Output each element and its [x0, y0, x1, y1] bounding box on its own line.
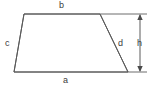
label-height-h: h — [137, 39, 142, 48]
arrow-head-up-icon — [137, 14, 142, 20]
geometry-figure: b c a d h — [0, 0, 152, 91]
label-side-a: a — [63, 76, 68, 85]
trapezoid-shape — [14, 14, 128, 72]
label-side-d: d — [118, 39, 123, 48]
arrow-head-down-icon — [137, 66, 142, 72]
label-side-b: b — [59, 1, 64, 10]
label-side-c: c — [5, 39, 10, 48]
figure-canvas — [0, 0, 152, 91]
